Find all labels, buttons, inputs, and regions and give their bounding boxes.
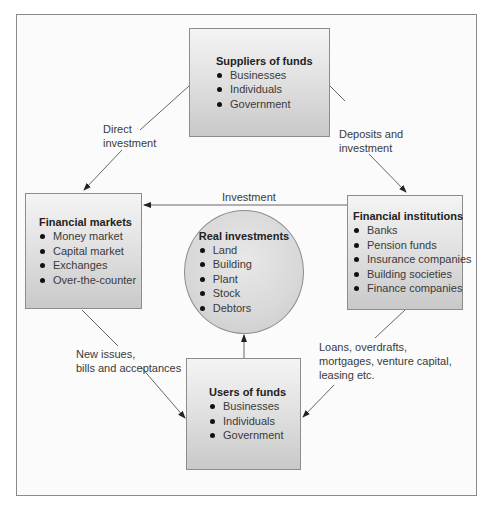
list-item: Government	[216, 97, 313, 112]
list-item: Individuals	[209, 414, 286, 429]
list-item: Plant	[199, 272, 289, 287]
list-item: Pension funds	[353, 238, 472, 253]
list-item: Finance companies	[353, 281, 472, 296]
list-item: Money market	[39, 229, 136, 244]
node-title: Real investments	[199, 229, 289, 243]
arrow-deposits	[330, 86, 345, 101]
list-item: Insurance companies	[353, 252, 472, 267]
node-title: Users of funds	[209, 385, 286, 399]
list-item: Businesses	[209, 399, 286, 414]
list-item: Stock	[199, 286, 289, 301]
edge-label-new-issues: New issues, bills and acceptances	[76, 347, 181, 375]
edge-label-deposits: Deposits and investment	[339, 127, 403, 155]
list-item: Individuals	[216, 82, 313, 97]
edge-label-loans: Loans, overdrafts, mortgages, venture ca…	[319, 340, 452, 382]
node-users-of-funds: Users of funds Businesses Individuals Go…	[186, 358, 301, 470]
list-item: Land	[199, 243, 289, 258]
edge-label-direct-investment: Direct investment	[103, 122, 156, 150]
list-item: Exchanges	[39, 258, 136, 273]
arrow-loans	[375, 310, 405, 338]
node-title: Financial institutions	[353, 209, 472, 223]
list-item: Over-the-counter	[39, 273, 136, 288]
node-title: Suppliers of funds	[216, 54, 313, 68]
list-item: Building societies	[353, 267, 472, 282]
list-item: Debtors	[199, 301, 289, 316]
list-item: Capital market	[39, 244, 136, 259]
node-financial-markets: Financial markets Money market Capital m…	[25, 193, 142, 309]
list-item: Building	[199, 257, 289, 272]
node-title: Financial markets	[39, 215, 136, 229]
list-item: Government	[209, 428, 286, 443]
list-item: Banks	[353, 223, 472, 238]
node-suppliers-of-funds: Suppliers of funds Businesses Individual…	[189, 28, 330, 137]
list-item: Businesses	[216, 68, 313, 83]
node-financial-institutions: Financial institutions Banks Pension fun…	[347, 195, 463, 310]
node-real-investments: Real investments Land Building Plant Sto…	[184, 210, 304, 334]
arrow-new-issues	[82, 310, 118, 346]
edge-label-investment: Investment	[222, 190, 276, 204]
